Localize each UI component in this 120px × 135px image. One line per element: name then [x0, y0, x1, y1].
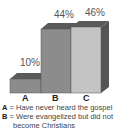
legend-item-a: A = Have never heard the gospel [2, 103, 120, 112]
category-b: B [52, 93, 59, 103]
category-c: C [83, 93, 90, 103]
category-a: A [22, 93, 29, 103]
value-label-b: 44% [54, 9, 74, 20]
legend-item-b-cont: become Christians [2, 121, 120, 130]
bar-c [71, 21, 109, 93]
value-label-c: 46% [85, 7, 105, 18]
legend-item-b: B = Were evangelized but did not [2, 112, 120, 121]
value-label-a: 10% [20, 57, 40, 68]
legend: A = Have never heard the gospel B = Were… [2, 103, 120, 130]
